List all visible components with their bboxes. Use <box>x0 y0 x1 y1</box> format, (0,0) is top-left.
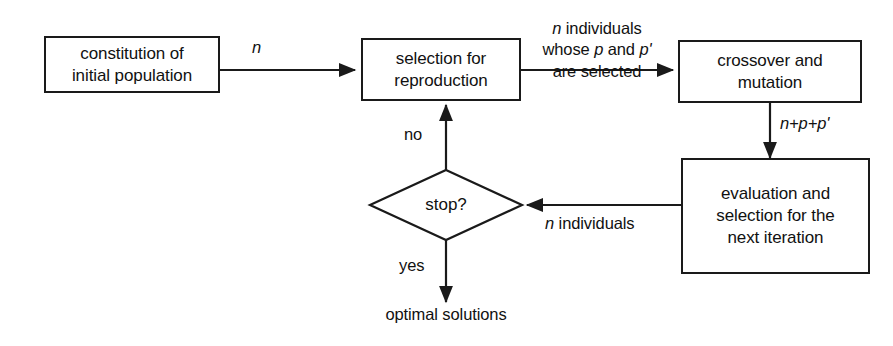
edge-label-whose: whose <box>542 40 594 58</box>
edge-label-n-count-text: n <box>252 38 261 56</box>
edge-label-branch-yes-text: yes <box>399 256 424 274</box>
terminal-optimal-solutions-text: optimal solutions <box>385 305 506 323</box>
edge-label-branch-yes: yes <box>399 255 424 276</box>
edge-label-feedback-word: individuals <box>554 214 634 232</box>
node-constitution-line1: constitution of <box>66 43 198 65</box>
node-selection-for-reproduction[interactable]: selection for reproduction <box>361 38 521 101</box>
edge-label-feedback-n: n <box>545 214 554 232</box>
edge-label-selected-individuals: n individuals whose p and p' are selecte… <box>527 18 667 82</box>
node-crossover-and-mutation[interactable]: crossover and mutation <box>678 40 862 103</box>
node-evaluation-line2: selection for the <box>710 205 840 227</box>
node-evaluation-line1: evaluation and <box>710 183 840 205</box>
node-crossover-line2: mutation <box>711 72 828 94</box>
edge-label-p-prime: p' <box>639 40 651 58</box>
edge-label-selected-n: n <box>552 19 561 37</box>
terminal-optimal-solutions: optimal solutions <box>326 304 566 325</box>
node-selection-line2: reproduction <box>388 70 493 92</box>
edge-label-selected-line2: whose p and p' <box>527 39 667 60</box>
node-evaluation-line3: next iteration <box>710 227 840 249</box>
node-constitution-line2: initial population <box>66 65 198 87</box>
edge-label-selected-individuals-word: individuals <box>561 19 641 37</box>
edge-label-feedback-individuals: n individuals <box>545 213 635 234</box>
edge-label-n-count: n <box>252 37 261 58</box>
node-constitution-of-initial-population[interactable]: constitution of initial population <box>44 36 220 93</box>
node-selection-line1: selection for <box>388 48 493 70</box>
edge-label-and: and <box>603 40 639 58</box>
edge-label-selected-line1: n individuals <box>527 18 667 39</box>
edge-label-selected-line3: are selected <box>527 61 667 82</box>
node-crossover-line1: crossover and <box>711 50 828 72</box>
edge-label-p: p <box>594 40 603 58</box>
flowchart-canvas: constitution of initial population selec… <box>0 0 893 346</box>
edge-label-branch-no: no <box>404 124 422 145</box>
node-evaluation-and-selection[interactable]: evaluation and selection for the next it… <box>681 158 870 274</box>
edge-label-branch-no-text: no <box>404 125 422 143</box>
edge-label-offspring-count-text: n+p+p' <box>780 114 829 132</box>
decision-diamond-shape <box>370 170 522 240</box>
edge-label-offspring-count: n+p+p' <box>780 113 829 134</box>
